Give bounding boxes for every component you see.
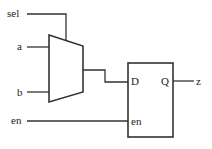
output-label-z: z [196,75,201,87]
input-label-sel: sel [7,7,19,19]
input-label-en: en [11,114,22,126]
latch-port-d: D [131,75,139,87]
input-label-b: b [17,86,23,98]
latch-port-en: en [131,115,142,127]
wire-sel [27,14,66,41]
input-label-a: a [17,40,22,52]
wire-mux-to-d [83,70,128,82]
circuit-diagram: sel a b en D Q en z [0,0,212,149]
mux-shape [49,35,83,102]
latch-port-q: Q [161,75,169,87]
